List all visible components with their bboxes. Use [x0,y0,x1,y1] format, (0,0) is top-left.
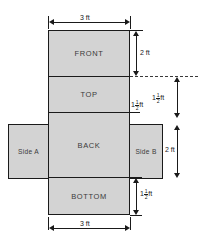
top-dim-line [53,22,125,23]
front-top-seam-dashed-line [130,76,198,77]
bottom-height-label: 112ft [140,189,152,200]
front-dim-arrow-up [133,31,139,36]
bottom-unit: ft [148,190,152,197]
top-outer-dim-arrow-up [174,77,180,82]
top-outer-fraction: 12 [156,93,160,104]
panel-side-a-label: Side A [18,148,39,155]
panel-bottom-label: BOTTOM [71,192,107,201]
panel-top[interactable]: TOP [48,76,130,113]
bottom-width-extension-right [130,217,131,230]
box-net-figure: 3 ft FRONT TOP BACK BOTTOM Side A Side B… [0,0,200,250]
bottom-dim-line [136,181,137,212]
panel-front[interactable]: FRONT [48,30,130,77]
front-height-label: 2 ft [140,49,150,56]
front-dim-arrow-down [133,71,139,76]
panel-top-label: TOP [80,90,97,99]
panel-side-b-label: Side B [135,148,156,155]
bottom-fraction: 12 [144,189,148,200]
panel-back-label: BACK [78,141,101,150]
top-dim-extension-right [130,16,131,29]
back-dim-arrow-up [174,125,180,130]
bottom-width-arrow-left [49,225,54,231]
top-outer-dim-arrow-down [174,113,180,118]
top-height-outer-label: 112ft [152,93,164,104]
panel-side-a[interactable]: Side A [8,124,49,179]
panel-bottom[interactable]: BOTTOM [48,177,130,215]
top-inner-fraction: 12 [135,100,139,111]
panel-back[interactable]: BACK [48,112,130,178]
bottom-dim-arrow-down [133,210,139,215]
top-inner-dim-extension [130,112,140,113]
top-dim-arrow-left [49,19,54,25]
front-dim-line [136,34,137,73]
top-width-label: 3 ft [78,14,92,21]
bottom-width-dim-line [53,228,125,229]
panel-side-b[interactable]: Side B [129,124,163,179]
back-dim-arrow-down [174,173,180,178]
back-height-label: 2 ft [165,146,175,153]
bottom-width-arrow-right [125,225,130,231]
top-outer-unit: ft [160,94,164,101]
bottom-width-label: 3 ft [78,220,92,227]
bottom-dim-arrow-up [133,178,139,183]
back-dim-line [177,128,178,175]
top-inner-unit: ft [139,101,143,108]
bottom-dim-extension-bot [130,215,142,216]
top-height-inner-label: 112ft [131,100,143,111]
panel-front-label: FRONT [75,49,104,58]
top-dim-arrow-right [125,19,130,25]
top-outer-dim-line [177,80,178,116]
